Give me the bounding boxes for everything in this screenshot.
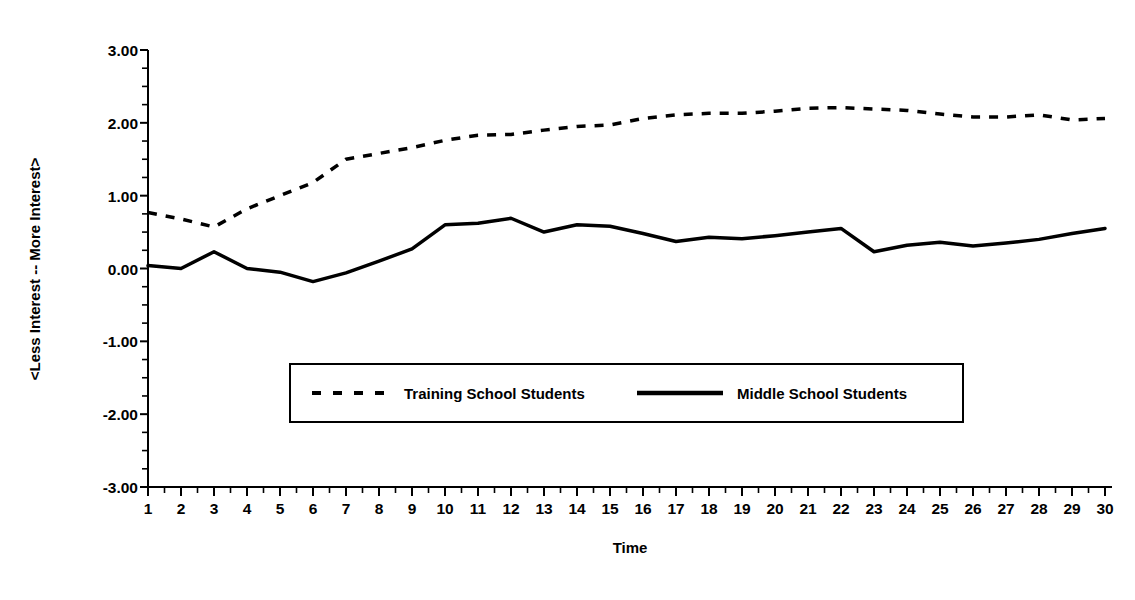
x-axis-tick-label: 20 [766, 500, 783, 517]
y-axis-tick-label: 1.00 [108, 188, 138, 205]
y-axis-title: <Less Interest -- More Interest> [26, 157, 43, 380]
x-axis-tick-label: 8 [375, 500, 384, 517]
x-axis-tick-label: 12 [502, 500, 519, 517]
x-axis-tick-label: 22 [832, 500, 849, 517]
series-training-school-students [148, 108, 1105, 227]
x-axis-tick-label: 24 [898, 500, 916, 517]
x-axis-tick-label: 29 [1063, 500, 1081, 517]
y-axis-tick-label: -2.00 [103, 406, 138, 423]
series-middle-school-students [148, 218, 1105, 281]
x-axis-tick-label: 30 [1096, 500, 1113, 517]
x-axis-tick-label: 19 [733, 500, 751, 517]
x-axis-tick-label: 5 [276, 500, 285, 517]
x-axis-tick-label: 17 [667, 500, 684, 517]
x-axis-tick-label: 7 [342, 500, 351, 517]
x-axis-tick-label: 6 [309, 500, 318, 517]
x-axis-tick-label: 2 [177, 500, 186, 517]
x-axis-tick-label: 13 [535, 500, 553, 517]
x-axis-tick-label: 15 [601, 500, 619, 517]
x-axis-tick-label: 25 [931, 500, 949, 517]
x-axis-tick-label: 26 [964, 500, 982, 517]
chart-legend: Training School Students Middle School S… [290, 364, 963, 422]
x-axis-tick-label: 16 [634, 500, 652, 517]
x-axis-tick-label: 11 [470, 500, 487, 517]
y-axis-tick-label: -1.00 [103, 333, 138, 350]
x-axis-tick-label: 21 [799, 500, 817, 517]
x-axis-tick-label: 28 [1030, 500, 1048, 517]
y-axis-tick-labels: 3.002.001.000.00-1.00-2.00-3.00 [103, 42, 138, 496]
x-axis-tick-label: 23 [865, 500, 883, 517]
y-axis-tick-label: 2.00 [108, 115, 138, 132]
legend-label-middle-school-students: Middle School Students [737, 385, 907, 402]
chart-page: <Less Interest -- More Interest> 3.002.0… [0, 0, 1135, 600]
y-axis-ticks [140, 50, 148, 487]
y-axis-tick-label: 0.00 [108, 261, 138, 278]
legend-label-training-school-students: Training School Students [404, 385, 585, 402]
x-axis-tick-label: 9 [408, 500, 417, 517]
line-chart: <Less Interest -- More Interest> 3.002.0… [0, 0, 1135, 600]
x-axis-tick-label: 10 [436, 500, 453, 517]
x-axis-title: Time [613, 539, 648, 556]
x-axis-tick-label: 1 [144, 500, 153, 517]
x-axis-ticks [148, 487, 1105, 496]
x-axis-tick-labels: 1234567891011121314151617181920212223242… [144, 500, 1114, 517]
x-axis-tick-label: 27 [997, 500, 1014, 517]
y-axis-tick-label: -3.00 [103, 479, 138, 496]
x-axis-tick-label: 18 [700, 500, 718, 517]
x-axis-tick-label: 14 [568, 500, 586, 517]
y-axis-tick-label: 3.00 [108, 42, 138, 59]
x-axis-tick-label: 3 [210, 500, 219, 517]
x-axis-tick-label: 4 [243, 500, 252, 517]
